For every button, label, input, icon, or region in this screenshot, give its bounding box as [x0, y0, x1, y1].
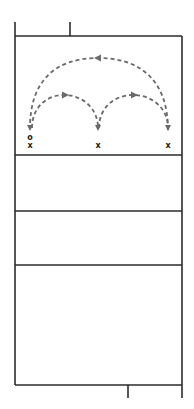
- player-markers: o x x x: [27, 133, 171, 150]
- player-marker-right: x: [165, 141, 171, 150]
- arc-right-to-left: [30, 58, 168, 130]
- arc-left-to-middle: [32, 95, 98, 128]
- arc-middle-to-right: [99, 95, 168, 128]
- court-diagram: o x x x: [0, 0, 194, 409]
- player-marker-middle: x: [95, 141, 101, 150]
- court-lines: [15, 22, 182, 398]
- player-marker-left: x: [27, 141, 33, 150]
- arrow-right-icon: [131, 92, 138, 99]
- arrow-left-icon: [94, 55, 101, 62]
- movement-paths: [30, 55, 168, 131]
- arrow-right-icon: [62, 92, 69, 99]
